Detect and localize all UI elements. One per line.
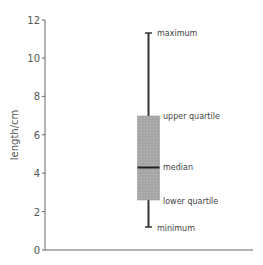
y-tick-label-4: 4 — [34, 168, 40, 179]
y-tick-label-6: 6 — [34, 130, 40, 141]
y-tick-label-10: 10 — [27, 53, 40, 64]
annotation-median: median — [163, 163, 193, 172]
y-tick-label-0: 0 — [34, 245, 40, 256]
y-tick-label-8: 8 — [34, 91, 40, 102]
box-plot-chart: 0 2 4 6 8 10 12 length/cm maximum upper … — [0, 0, 263, 265]
y-axis-label: length/cm — [9, 110, 20, 160]
annotation-upper-quartile: upper quartile — [163, 112, 220, 121]
y-tick-label-2: 2 — [34, 207, 40, 218]
interquartile-box — [138, 116, 160, 200]
annotation-maximum: maximum — [157, 29, 198, 38]
y-tick-label-12: 12 — [27, 15, 40, 26]
annotation-lower-quartile: lower quartile — [163, 197, 218, 206]
annotation-minimum: minimum — [157, 224, 195, 233]
